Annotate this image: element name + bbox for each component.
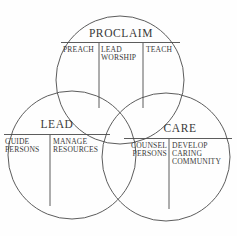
venn-diagram: PROCLAIM PREACH LEAD WORSHIP TEACH LEAD … — [0, 0, 237, 236]
segment-label-manage-resources: MANAGE RESOURCES — [53, 138, 109, 154]
segment-label-develop-caring-community: DEVELOP CARING COMMUNITY — [172, 142, 234, 167]
circle-title-proclaim: PROCLAIM — [62, 27, 180, 39]
circle-title-care: CARE — [140, 122, 220, 134]
circle-title-lead: LEAD — [12, 118, 102, 130]
segment-label-guide-persons: GUIDE PERSONS — [5, 138, 48, 154]
segment-label-teach: TEACH — [146, 46, 178, 54]
circle-lead — [8, 91, 136, 219]
segment-label-counsel-persons: COUNSEL PERSONS — [126, 142, 167, 158]
segment-label-lead-worship: LEAD WORSHIP — [101, 46, 141, 62]
segment-label-preach: PREACH — [63, 46, 97, 54]
